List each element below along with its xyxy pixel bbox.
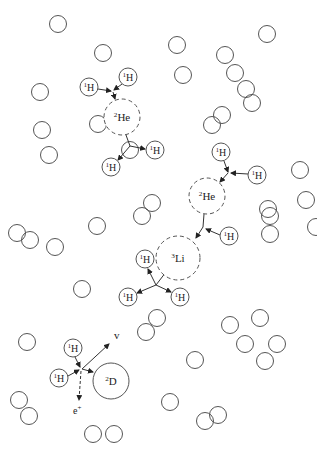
nucleus-he: 2He	[104, 99, 140, 135]
free-particle	[204, 117, 221, 134]
neutrino-label: v	[114, 329, 120, 341]
arrow	[126, 135, 130, 146]
free-particle	[222, 317, 239, 334]
free-particle	[175, 67, 192, 84]
arrow	[98, 89, 111, 91]
free-particle	[227, 65, 244, 82]
free-particle	[197, 413, 214, 430]
free-particle	[237, 336, 254, 353]
arrow	[137, 285, 156, 293]
free-particle	[85, 426, 102, 443]
reactant-h-particle: 1H	[212, 143, 230, 161]
free-particle	[90, 116, 107, 133]
product-h-particle: 1H	[102, 158, 120, 176]
arrow	[224, 161, 228, 172]
free-particle	[47, 239, 64, 256]
arrow	[113, 92, 115, 99]
free-particle	[34, 122, 51, 139]
reactant-h-particle: 1H	[50, 369, 68, 387]
arrow	[206, 229, 220, 235]
free-particle	[21, 408, 38, 425]
free-particle	[9, 225, 26, 242]
arrow	[75, 357, 80, 367]
labeled-particles: 1H1H2He1H1H1H1H2He1H3Li1H1H1H1H1H2D	[50, 68, 266, 399]
free-particle	[19, 334, 36, 351]
free-particle	[74, 281, 91, 298]
arrow	[203, 214, 204, 227]
arrow	[231, 173, 248, 174]
free-particle	[169, 37, 186, 54]
product-h-particle: 1H	[171, 288, 189, 306]
free-particle	[298, 192, 315, 209]
free-particle	[292, 162, 309, 179]
nucleus-he: 2He	[189, 178, 225, 214]
free-particle	[257, 353, 274, 370]
free-particle	[149, 310, 166, 327]
free-particle	[95, 45, 112, 62]
product-h-particle: 1H	[119, 288, 137, 306]
nucleus-li: 3Li	[156, 236, 200, 280]
free-particle	[162, 394, 179, 411]
product-h-particle: 1H	[146, 141, 164, 159]
positron-label: e+	[73, 404, 81, 416]
free-particle	[244, 95, 261, 112]
free-particle	[187, 352, 204, 369]
free-particle	[122, 142, 139, 159]
arrow	[148, 269, 156, 285]
diagram-canvas: 1H1H2He1H1H1H1H2He1H3Li1H1H1H1H1H2D v e+	[0, 0, 317, 461]
fusion-diagram: 1H1H2He1H1H1H1H2He1H3Li1H1H1H1H1H2D v e+	[0, 0, 317, 461]
product-h-particle: 1H	[136, 250, 154, 268]
arrow	[114, 84, 122, 90]
free-particle	[41, 147, 58, 164]
reaction-arrows	[68, 84, 248, 400]
cropped-caption-strip	[0, 452, 317, 461]
arrow	[156, 285, 171, 292]
free-particle	[269, 336, 286, 353]
arrow	[220, 173, 228, 182]
arrow	[196, 227, 203, 238]
free-particle	[22, 232, 39, 249]
arrow	[82, 369, 93, 372]
free-particle	[252, 310, 269, 327]
reactant-h-particle: 1H	[220, 227, 238, 245]
free-particle	[89, 218, 106, 235]
free-particle	[262, 226, 279, 243]
free-particle	[106, 426, 123, 443]
free-particle	[210, 407, 227, 424]
reactant-h-particle: 1H	[64, 339, 82, 357]
reactant-h-particle: 1H	[119, 68, 137, 86]
free-particle	[259, 26, 276, 43]
free-particle	[214, 107, 231, 124]
free-particle	[32, 84, 49, 101]
reactant-h-particle: 1H	[248, 166, 266, 184]
free-particle	[11, 392, 28, 409]
positron-arrow	[79, 371, 81, 400]
free-particle	[138, 324, 155, 341]
arrow	[68, 370, 79, 376]
nucleus-d: 2D	[93, 363, 129, 399]
free-particle	[134, 208, 151, 225]
reactant-h-particle: 1H	[80, 78, 98, 96]
free-particle	[50, 16, 67, 33]
free-particle	[217, 47, 234, 64]
free-particle	[308, 219, 318, 236]
